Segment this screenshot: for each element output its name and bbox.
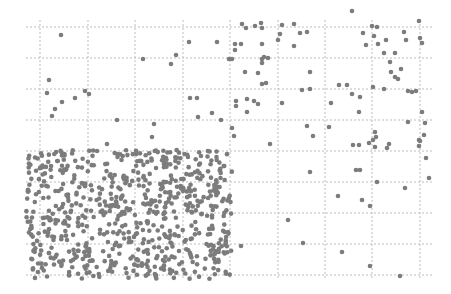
data-point (200, 174, 205, 179)
data-point (76, 248, 81, 253)
data-point (422, 133, 427, 138)
data-point (216, 268, 221, 273)
data-point (131, 169, 136, 174)
data-point (184, 172, 189, 177)
data-point (135, 272, 140, 277)
data-point (172, 276, 177, 281)
data-point (85, 248, 90, 253)
data-point (163, 234, 168, 239)
data-point (195, 199, 200, 204)
data-point (146, 272, 151, 277)
data-point (205, 214, 210, 219)
data-point (47, 251, 52, 256)
data-point (74, 192, 79, 197)
data-point (404, 38, 409, 43)
data-point (197, 274, 202, 279)
scatter-plot (0, 0, 451, 294)
data-point (189, 223, 194, 228)
data-point (376, 42, 381, 47)
data-point (126, 230, 131, 235)
data-point (36, 270, 41, 275)
data-point (41, 222, 46, 227)
data-point (45, 91, 50, 96)
data-point (41, 196, 46, 201)
data-point (214, 180, 219, 185)
data-point (131, 200, 136, 205)
data-point (194, 208, 199, 213)
data-point (80, 181, 85, 186)
data-point (50, 211, 55, 216)
data-point (203, 266, 208, 271)
data-point (40, 172, 45, 177)
data-point (145, 188, 150, 193)
data-point (223, 269, 228, 274)
data-point (47, 208, 52, 213)
data-point (133, 213, 138, 218)
data-point (63, 210, 68, 215)
data-point (84, 224, 89, 229)
data-point (216, 257, 221, 262)
data-point (80, 276, 85, 281)
data-point (102, 176, 107, 181)
data-point (164, 157, 169, 162)
data-point (64, 233, 69, 238)
data-point (243, 70, 248, 75)
data-point (80, 257, 85, 262)
data-point (52, 152, 57, 157)
data-point (34, 169, 39, 174)
data-point (213, 272, 218, 277)
data-point (57, 259, 62, 264)
data-point (109, 263, 114, 268)
data-point (39, 261, 44, 266)
data-point (418, 139, 423, 144)
data-point (221, 250, 226, 255)
data-point (48, 255, 53, 260)
data-point (147, 228, 152, 233)
data-point (62, 152, 67, 157)
data-point (98, 191, 103, 196)
data-point (300, 88, 305, 93)
data-point (420, 110, 425, 115)
data-point (195, 254, 200, 259)
data-point (221, 214, 226, 219)
data-point (373, 145, 378, 150)
data-point (76, 220, 81, 225)
data-point (120, 193, 125, 198)
data-point (131, 269, 136, 274)
data-point (187, 40, 192, 45)
data-point (260, 42, 265, 47)
data-point (160, 224, 165, 229)
data-point (244, 26, 249, 31)
data-point (206, 196, 211, 201)
data-point (396, 77, 401, 82)
data-point (136, 247, 141, 252)
data-point (125, 153, 130, 158)
data-point (175, 156, 180, 161)
data-point (350, 92, 355, 97)
data-point (189, 172, 194, 177)
data-point (163, 216, 168, 221)
data-point (206, 169, 211, 174)
data-point (209, 175, 214, 180)
data-point (107, 209, 112, 214)
data-point (174, 165, 179, 170)
data-point (280, 23, 285, 28)
data-point (155, 150, 160, 155)
data-point (65, 238, 70, 243)
data-point (113, 221, 118, 226)
data-point (417, 144, 422, 149)
data-point (423, 121, 428, 126)
data-point (89, 209, 94, 214)
data-point (115, 217, 120, 222)
data-point (172, 232, 177, 237)
data-point (262, 55, 267, 60)
data-point (47, 227, 52, 232)
data-point (136, 263, 141, 268)
data-point (60, 100, 65, 105)
data-point (213, 251, 218, 256)
data-point (27, 153, 32, 158)
data-point (209, 204, 214, 209)
data-point (155, 254, 160, 259)
data-point (204, 242, 209, 247)
data-point (145, 160, 150, 165)
